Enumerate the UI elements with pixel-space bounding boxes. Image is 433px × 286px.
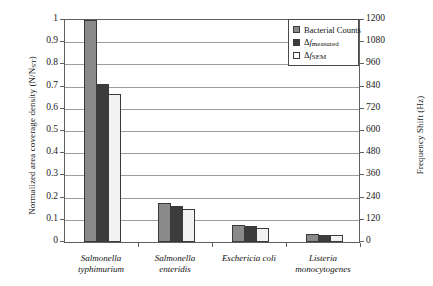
x-axis-tickmark xyxy=(138,243,139,247)
y-axis-right-tickmark xyxy=(360,152,364,153)
y-axis-left-tickmark xyxy=(60,130,64,131)
x-axis-category-label: Listeria monocytogenes xyxy=(278,253,368,275)
chart-legend: Bacterial Counts Δfmeasured ΔfSEM xyxy=(288,19,359,66)
y-axis-right-tick-label: 0 xyxy=(366,236,406,246)
legend-item-bacterial-counts: Bacterial Counts xyxy=(293,23,355,36)
y-axis-right-tickmark xyxy=(360,174,364,175)
measured-subscript: measured xyxy=(312,40,339,48)
legend-item-delta-f-sem: ΔfSEM xyxy=(293,49,355,62)
y-axis-right-tick-label: 600 xyxy=(366,125,406,135)
bar-group xyxy=(213,20,287,242)
y-axis-left-tickmark xyxy=(60,219,64,220)
bar xyxy=(182,209,195,242)
y-axis-right-tick-label: 120 xyxy=(366,214,406,224)
y-axis-right-tickmark xyxy=(360,63,364,64)
y-axis-right-tick-label: 1200 xyxy=(366,14,406,24)
y-axis-right-tick-label: 720 xyxy=(366,103,406,113)
y-axis-left-tick-label: 0.1 xyxy=(18,214,58,224)
bar-group xyxy=(65,20,139,242)
legend-item-delta-f-measured: Δfmeasured xyxy=(293,36,355,49)
y-axis-left-tick-label: 1 xyxy=(18,14,58,24)
y-axis-left-tick-label: 0.5 xyxy=(18,125,58,135)
y-axis-left-tickmark xyxy=(60,197,64,198)
y-axis-left-tickmark xyxy=(60,63,64,64)
x-axis-tickmark xyxy=(286,243,287,247)
legend-label-delta-f-sem: ΔfSEM xyxy=(304,50,326,61)
y-axis-right-tick-label: 480 xyxy=(366,147,406,157)
y-axis-right-tick-label: 1080 xyxy=(366,36,406,46)
y-axis-left-tickmark xyxy=(60,174,64,175)
y-axis-left-tickmark xyxy=(60,19,64,20)
y-axis-right-tickmark xyxy=(360,241,364,242)
legend-label-bacterial-counts: Bacterial Counts xyxy=(304,25,361,35)
white-swatch-icon xyxy=(293,52,300,59)
y-axis-right-tickmark xyxy=(360,108,364,109)
dark-swatch-icon xyxy=(293,39,300,46)
y-axis-left-tick-label: 0.8 xyxy=(18,58,58,68)
y-axis-right-tickmark xyxy=(360,130,364,131)
y-axis-right-tick-label: 840 xyxy=(366,81,406,91)
y-axis-right-tick-label: 960 xyxy=(366,58,406,68)
y-axis-left-tickmark xyxy=(60,86,64,87)
y-axis-left-tickmark xyxy=(60,152,64,153)
bar-group xyxy=(139,20,213,242)
y-axis-left-tick-label: 0.3 xyxy=(18,169,58,179)
y-axis-left-tick-label: 0.6 xyxy=(18,103,58,113)
y-axis-left-tickmark xyxy=(60,241,64,242)
sem-subscript: SEM xyxy=(312,53,326,61)
bar xyxy=(256,228,269,242)
y-axis-right-tickmark xyxy=(360,86,364,87)
y-axis-left-tick-label: 0.9 xyxy=(18,36,58,46)
y-axis-right-tickmark xyxy=(360,197,364,198)
legend-label-delta-f-measured: Δfmeasured xyxy=(304,37,339,48)
y-axis-right-tick-label: 240 xyxy=(366,192,406,202)
bar-chart: Normalized area coverage density (N/NST)… xyxy=(0,0,433,286)
y-axis-left-tickmark xyxy=(60,41,64,42)
y-axis-left-tick-label: 0 xyxy=(18,236,58,246)
bar xyxy=(330,235,343,242)
y-axis-right-tickmark xyxy=(360,19,364,20)
x-axis-tickmark xyxy=(360,243,361,247)
y-axis-left-tick-label: 0.2 xyxy=(18,192,58,202)
bar xyxy=(108,94,121,242)
y-axis-right-tick-label: 360 xyxy=(366,169,406,179)
y-axis-right-tickmark xyxy=(360,219,364,220)
y-axis-left-tick-label: 0.4 xyxy=(18,147,58,157)
y-axis-left-tick-label: 0.7 xyxy=(18,81,58,91)
y-axis-right-tickmark xyxy=(360,41,364,42)
y-axis-left-tickmark xyxy=(60,108,64,109)
x-axis-tickmark xyxy=(212,243,213,247)
gray-swatch-icon xyxy=(293,26,300,33)
y-axis-right-title: Frequency Shift (Hz) xyxy=(415,35,425,235)
